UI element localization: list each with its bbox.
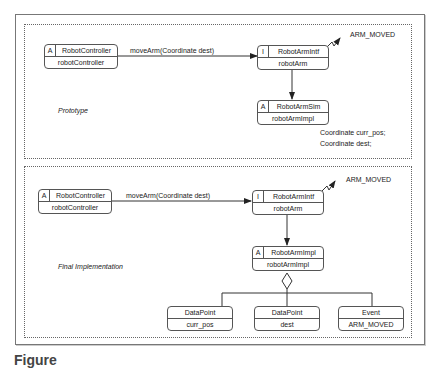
prototype-label: Prototype: [58, 107, 88, 114]
datapoint-dest-box[interactable]: DataPoint dest: [254, 306, 320, 331]
instance-name: ARM_MOVED: [339, 319, 403, 330]
stereotype-tag: I: [253, 191, 264, 202]
bottom-event-label: ARM_MOVED: [346, 176, 391, 183]
top-robot-arm-sim-box[interactable]: ARobotArmSim robotArmImpl: [257, 100, 329, 125]
instance-name: robotController: [45, 57, 117, 68]
event-arm-moved-box[interactable]: Event ARM_MOVED: [338, 306, 404, 331]
top-robot-controller-box[interactable]: ARobotController robotController: [44, 44, 118, 69]
attribute-line: Coordinate curr_pos;: [320, 129, 385, 136]
class-name: RobotController: [50, 190, 111, 201]
instance-name: robotController: [39, 202, 111, 213]
class-name: DataPoint: [255, 307, 319, 319]
class-name: RobotArmImpl: [264, 247, 323, 258]
instance-name: robotArm: [253, 203, 323, 214]
stereotype-tag: I: [258, 46, 269, 57]
top-event-label: ARM_MOVED: [350, 31, 395, 38]
stereotype-tag: A: [39, 190, 50, 201]
class-name: RobotController: [56, 45, 117, 56]
bottom-robot-arm-intf-box[interactable]: IRobotArmIntf robotArm: [252, 190, 324, 215]
attribute-line: Coordinate dest;: [320, 140, 371, 147]
instance-name: curr_pos: [168, 319, 232, 330]
class-name: DataPoint: [168, 307, 232, 319]
bottom-robot-arm-impl-box[interactable]: ARobotArmImpl robotArmImpl: [252, 246, 324, 271]
aggregation-diamond-icon: [282, 273, 292, 289]
top-message-label: moveArm(Coordinate dest): [130, 47, 214, 54]
class-name: RobotArmIntf: [264, 191, 323, 202]
top-robot-arm-intf-box[interactable]: IRobotArmIntf robotArm: [257, 45, 329, 70]
class-name: Event: [339, 307, 403, 319]
bottom-event-zigzag-icon: [321, 181, 335, 192]
stereotype-tag: A: [253, 247, 264, 258]
figure-caption: Figure: [14, 352, 57, 368]
aggregation-branch: [222, 293, 372, 306]
instance-name: dest: [255, 319, 319, 330]
instance-name: robotArmImpl: [253, 259, 323, 270]
instance-name: robotArm: [258, 58, 328, 69]
class-name: RobotArmSim: [269, 101, 328, 112]
bottom-robot-controller-box[interactable]: ARobotController robotController: [38, 189, 112, 214]
class-name: RobotArmIntf: [269, 46, 328, 57]
stereotype-tag: A: [258, 101, 269, 112]
bottom-message-label: moveArm(Coordinate dest): [126, 192, 210, 199]
stereotype-tag: A: [45, 45, 56, 56]
datapoint-curr-pos-box[interactable]: DataPoint curr_pos: [167, 306, 233, 331]
instance-name: robotArmImpl: [258, 113, 328, 124]
final-implementation-label: Final Implementation: [58, 263, 123, 270]
